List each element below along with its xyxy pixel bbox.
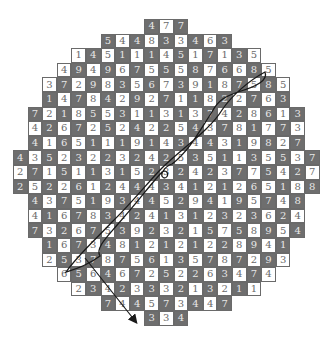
grid-cell[interactable]: 9 <box>188 77 203 92</box>
grid-cell[interactable]: 3 <box>159 223 174 238</box>
grid-cell[interactable]: 6 <box>217 63 232 78</box>
grid-cell[interactable]: 1 <box>86 136 101 151</box>
grid-cell[interactable]: 2 <box>144 267 159 282</box>
grid-cell[interactable]: 3 <box>159 180 174 195</box>
grid-cell[interactable]: 4 <box>115 34 130 49</box>
grid-cell[interactable]: 5 <box>188 253 203 268</box>
grid-cell[interactable]: 2 <box>203 165 218 180</box>
grid-cell[interactable]: 1 <box>188 209 203 224</box>
grid-cell[interactable]: 3 <box>144 282 159 297</box>
grid-cell[interactable]: 8 <box>305 180 320 195</box>
grid-cell[interactable]: 4 <box>57 63 72 78</box>
grid-cell[interactable]: 3 <box>130 282 145 297</box>
grid-cell[interactable]: 1 <box>174 92 189 107</box>
grid-cell[interactable]: 5 <box>276 77 291 92</box>
grid-cell[interactable]: 3 <box>232 48 247 63</box>
grid-cell[interactable]: 1 <box>144 136 159 151</box>
grid-cell[interactable]: 5 <box>261 165 276 180</box>
grid-cell[interactable]: 1 <box>71 48 86 63</box>
grid-cell[interactable]: 7 <box>217 121 232 136</box>
grid-cell[interactable]: 3 <box>174 136 189 151</box>
grid-cell[interactable]: 1 <box>86 165 101 180</box>
grid-cell[interactable]: 8 <box>203 92 218 107</box>
grid-cell[interactable]: 2 <box>217 92 232 107</box>
grid-cell[interactable]: 2 <box>144 92 159 107</box>
grid-cell[interactable]: 4 <box>28 121 43 136</box>
grid-cell[interactable]: 4 <box>101 267 116 282</box>
grid-cell[interactable]: 4 <box>86 48 101 63</box>
grid-cell[interactable]: 2 <box>42 180 57 195</box>
grid-cell[interactable]: 3 <box>42 77 57 92</box>
grid-cell[interactable]: 8 <box>217 253 232 268</box>
grid-cell[interactable]: 9 <box>247 136 262 151</box>
grid-cell[interactable]: 5 <box>159 63 174 78</box>
grid-cell[interactable]: 3 <box>203 121 218 136</box>
grid-cell[interactable]: 6 <box>203 267 218 282</box>
grid-cell[interactable]: 5 <box>174 63 189 78</box>
grid-cell[interactable]: 1 <box>188 238 203 253</box>
grid-cell[interactable]: 9 <box>247 238 262 253</box>
grid-cell[interactable]: 1 <box>86 194 101 209</box>
grid-cell[interactable]: 2 <box>188 267 203 282</box>
grid-cell[interactable]: 3 <box>276 92 291 107</box>
grid-cell[interactable]: 2 <box>144 223 159 238</box>
grid-cell[interactable]: 4 <box>188 121 203 136</box>
grid-cell[interactable]: 5 <box>144 296 159 311</box>
grid-cell[interactable]: 2 <box>86 150 101 165</box>
grid-cell[interactable]: 4 <box>144 19 159 34</box>
grid-cell[interactable]: 9 <box>101 194 116 209</box>
grid-cell[interactable]: 2 <box>276 209 291 224</box>
grid-cell[interactable]: 2 <box>232 209 247 224</box>
grid-cell[interactable]: 2 <box>144 165 159 180</box>
grid-cell[interactable]: 7 <box>203 107 218 122</box>
grid-cell[interactable]: 3 <box>86 282 101 297</box>
grid-cell[interactable]: 3 <box>42 194 57 209</box>
grid-cell[interactable]: 7 <box>130 267 145 282</box>
grid-cell[interactable]: 2 <box>174 194 189 209</box>
grid-cell[interactable]: 2 <box>13 165 28 180</box>
grid-cell[interactable]: 5 <box>101 48 116 63</box>
grid-cell[interactable]: 3 <box>188 150 203 165</box>
grid-cell[interactable]: 3 <box>217 165 232 180</box>
grid-cell[interactable]: 4 <box>290 209 305 224</box>
grid-cell[interactable]: 3 <box>28 150 43 165</box>
grid-cell[interactable]: 4 <box>276 165 291 180</box>
grid-cell[interactable]: 4 <box>144 209 159 224</box>
grid-cell[interactable]: 2 <box>101 180 116 195</box>
grid-cell[interactable]: 7 <box>71 121 86 136</box>
grid-cell[interactable]: 2 <box>232 180 247 195</box>
grid-cell[interactable]: 6 <box>71 223 86 238</box>
grid-cell[interactable]: 2 <box>144 238 159 253</box>
grid-cell[interactable]: 7 <box>115 253 130 268</box>
grid-cell[interactable]: 3 <box>159 107 174 122</box>
grid-cell[interactable]: 3 <box>101 165 116 180</box>
grid-cell[interactable]: 6 <box>203 34 218 49</box>
grid-cell[interactable]: 1 <box>217 48 232 63</box>
grid-cell[interactable]: 4 <box>261 267 276 282</box>
grid-cell[interactable]: 5 <box>203 223 218 238</box>
grid-cell[interactable]: 8 <box>232 121 247 136</box>
grid-cell[interactable]: 1 <box>232 282 247 297</box>
grid-cell[interactable]: 7 <box>305 165 320 180</box>
grid-cell[interactable]: 7 <box>159 77 174 92</box>
grid-cell[interactable]: 1 <box>174 107 189 122</box>
grid-cell[interactable]: 4 <box>13 150 28 165</box>
grid-cell[interactable]: 7 <box>217 296 232 311</box>
grid-cell[interactable]: 4 <box>28 209 43 224</box>
grid-cell[interactable]: 3 <box>101 209 116 224</box>
grid-cell[interactable]: 7 <box>130 63 145 78</box>
grid-cell[interactable]: 1 <box>144 107 159 122</box>
grid-cell[interactable]: 5 <box>130 165 145 180</box>
grid-cell[interactable]: 7 <box>247 267 262 282</box>
grid-cell[interactable]: 4 <box>101 282 116 297</box>
grid-cell[interactable]: 3 <box>115 77 130 92</box>
grid-cell[interactable]: 2 <box>57 180 72 195</box>
grid-cell[interactable]: 4 <box>115 296 130 311</box>
grid-cell[interactable]: 5 <box>86 107 101 122</box>
grid-cell[interactable]: 8 <box>188 63 203 78</box>
grid-cell[interactable]: 3 <box>71 150 86 165</box>
grid-cell[interactable]: 1 <box>42 92 57 107</box>
grid-cell[interactable]: 9 <box>232 194 247 209</box>
grid-cell[interactable]: 2 <box>290 165 305 180</box>
grid-cell[interactable]: 6 <box>57 209 72 224</box>
